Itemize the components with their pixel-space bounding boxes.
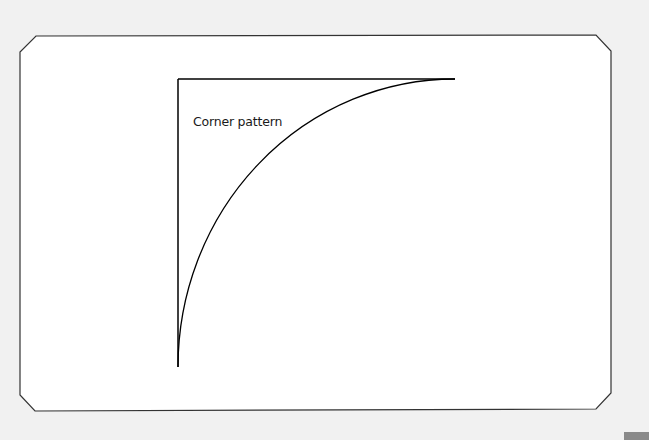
corner-pattern-label: Corner pattern	[193, 114, 282, 129]
chamfered-card-outline	[20, 35, 611, 411]
corner-gray-block	[624, 432, 649, 440]
diagram-canvas	[0, 0, 649, 440]
